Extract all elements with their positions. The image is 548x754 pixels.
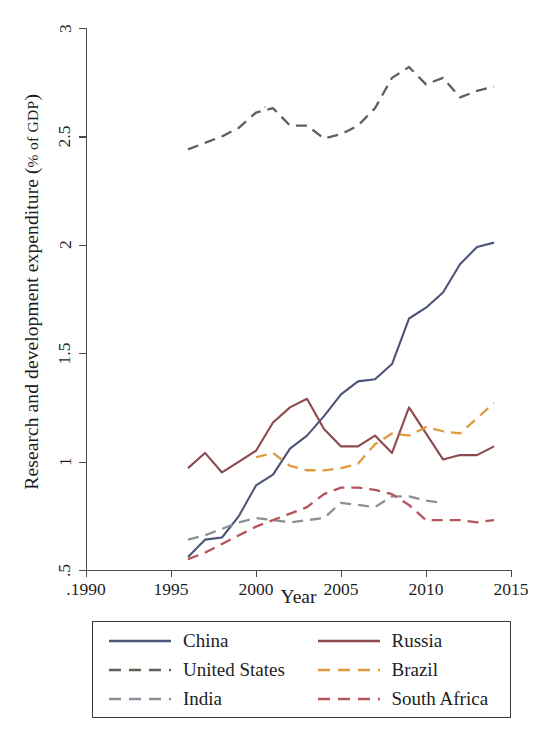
y-tick-label: 2 (52, 238, 78, 252)
series-line-china (188, 243, 494, 557)
x-tick (171, 570, 172, 577)
x-axis-line (86, 570, 511, 571)
y-tick (79, 570, 86, 571)
x-tick (256, 570, 257, 577)
series-line-russia (188, 399, 494, 473)
legend-swatch-icon (109, 664, 171, 676)
legend-swatch-icon (318, 664, 380, 676)
y-tick (79, 136, 86, 137)
legend-swatch-icon (318, 693, 380, 705)
legend-item-china[interactable]: China (93, 631, 302, 650)
x-tick (341, 570, 342, 577)
y-tick-label: .5 (52, 563, 78, 577)
legend-item-united-states[interactable]: United States (93, 660, 302, 679)
legend-swatch-icon (318, 635, 380, 647)
speckle (264, 106, 266, 108)
x-tick (426, 570, 427, 577)
legend-item-brazil[interactable]: Brazil (302, 660, 511, 679)
legend-label: United States (183, 660, 285, 679)
y-tick-label: 1.5 (52, 346, 78, 360)
legend-item-russia[interactable]: Russia (302, 631, 511, 650)
chart-figure: Research and development expenditure (% … (0, 0, 548, 754)
y-tick-label: 2.5 (52, 129, 78, 143)
x-axis-title: Year (86, 586, 511, 608)
legend-item-india[interactable]: India (93, 689, 302, 708)
y-tick-label: 3 (52, 21, 78, 35)
y-tick-label: 1 (52, 455, 78, 469)
y-tick (79, 245, 86, 246)
x-tick (86, 570, 87, 577)
y-axis-line (86, 28, 87, 570)
legend-label: Brazil (392, 660, 438, 679)
series-line-united-states (188, 67, 494, 149)
legend-label: South Africa (392, 689, 489, 708)
y-tick (79, 462, 86, 463)
plot-area: .511.522.53.199019952000200520102015 (86, 28, 511, 570)
legend-swatch-icon (109, 693, 171, 705)
y-axis-title-tail: ) (21, 94, 42, 101)
y-tick (79, 28, 86, 29)
y-tick (79, 353, 86, 354)
y-axis-title: Research and development expenditure (% … (10, 0, 54, 584)
legend-swatch-icon (109, 635, 171, 647)
x-tick (511, 570, 512, 577)
legend-label: China (183, 631, 228, 650)
legend-label: India (183, 689, 222, 708)
legend-item-south-africa[interactable]: South Africa (302, 689, 511, 708)
y-axis-title-smallcaps: % of GDP (24, 101, 41, 168)
chart-legend: ChinaRussiaUnited StatesBrazilIndiaSouth… (92, 621, 511, 718)
legend-label: Russia (392, 631, 443, 650)
series-lines (86, 28, 511, 570)
y-axis-title-main: Research and development expenditure ( (21, 168, 42, 490)
